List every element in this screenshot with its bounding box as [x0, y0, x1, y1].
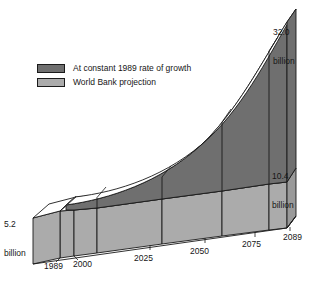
- legend-label-constant-growth: At constant 1989 rate of growth: [73, 63, 191, 73]
- bar-front-1989-2000: [74, 208, 97, 256]
- axis-label-year-2089: 2089: [283, 233, 302, 243]
- annotation-right-number: 10.4: [272, 172, 294, 182]
- axis-label-year-1989: 1989: [44, 262, 63, 272]
- annotation-right-unit: billion: [272, 201, 294, 211]
- bar-front-1989: [60, 210, 74, 258]
- annotation-peak-value: 32.0 billion: [273, 9, 295, 85]
- annotation-left-number: 5.2: [4, 220, 26, 230]
- lower-left-endcap: [33, 211, 60, 264]
- annotation-peak-unit: billion: [273, 57, 295, 67]
- legend-label-world-bank: World Bank projection: [73, 77, 156, 87]
- annotation-left-unit: billion: [4, 249, 26, 259]
- constant-growth-front: [66, 22, 287, 210]
- annotation-peak-number: 32.0: [273, 28, 295, 38]
- axis-label-year-2075: 2075: [242, 240, 261, 250]
- legend-swatch-world-bank: [37, 78, 65, 87]
- annotation-right-value: 10.4 billion: [272, 153, 294, 229]
- axis-label-year-2000: 2000: [73, 260, 92, 270]
- axis-label-year-2025: 2025: [134, 254, 153, 264]
- axis-label-year-2050: 2050: [190, 247, 209, 257]
- population-growth-chart: 32.0 billion 10.4 billion 5.2 billion 19…: [0, 0, 334, 287]
- legend-item-constant-growth: At constant 1989 rate of growth: [37, 63, 191, 73]
- legend-swatch-constant-growth: [37, 64, 65, 73]
- annotation-left-value: 5.2 billion: [4, 201, 26, 277]
- legend-item-world-bank: World Bank projection: [37, 77, 156, 87]
- bar-front-2050-2075: [222, 184, 269, 236]
- bar-front-2025-2050: [162, 191, 222, 244]
